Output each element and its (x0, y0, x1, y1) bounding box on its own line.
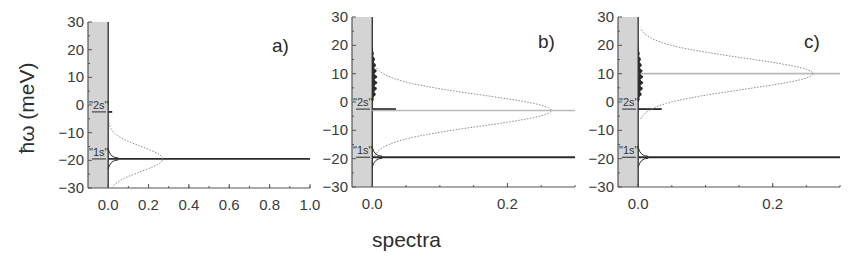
y-tick-label: 10 (597, 65, 614, 82)
x-tick-label: 0.6 (219, 196, 240, 213)
y-tick-label: 20 (597, 36, 614, 53)
y-tick-label: 0 (340, 93, 348, 110)
y-tick-label: 10 (67, 68, 84, 85)
y-tick-label: 10 (331, 65, 348, 82)
state-annotation: "1s" (619, 144, 639, 156)
panel-label: b) (538, 31, 555, 52)
y-tick-label: −20 (59, 151, 84, 168)
y-tick-label: −10 (589, 121, 614, 138)
y-tick-label: −10 (323, 121, 348, 138)
continuum-fill (372, 45, 377, 102)
x-tick-label: 0.0 (98, 196, 119, 213)
state-annotation: "2s" (619, 96, 639, 108)
panel-a: 3020100−10−20−300.00.20.40.60.81.0a)"2s"… (59, 13, 321, 213)
state-annotation: "2s" (353, 96, 373, 108)
panel-b: 3020100−10−20−300.00.2b)"2s""1s" (323, 8, 575, 212)
panel-label: a) (272, 35, 289, 56)
y-tick-label: 30 (331, 8, 348, 25)
x-tick-label: 0.0 (628, 195, 649, 212)
panel-label: c) (804, 31, 820, 52)
x-tick-label: 1.0 (300, 196, 321, 213)
x-axis-label: spectra (372, 228, 441, 252)
y-tick-label: −30 (59, 179, 84, 196)
y-tick-label: −10 (59, 124, 84, 141)
x-tick-label: 0.2 (138, 196, 159, 213)
y-tick-label: 30 (597, 8, 614, 25)
y-tick-label: 0 (76, 96, 84, 113)
y-tick-label: 30 (67, 13, 84, 30)
panel-c: 3020100−10−20−300.00.2c)"2s""1s" (589, 8, 840, 212)
x-tick-label: 0.2 (497, 195, 518, 212)
y-tick-label: 0 (606, 93, 614, 110)
y-tick-label: 20 (67, 41, 84, 58)
x-tick-label: 0.2 (762, 195, 783, 212)
gaussian-envelope (109, 123, 163, 188)
y-tick-label: −20 (589, 150, 614, 167)
x-tick-label: 0.0 (362, 195, 383, 212)
y-tick-label: −30 (323, 178, 348, 195)
y-tick-label: −30 (589, 178, 614, 195)
state-annotation: "1s" (89, 146, 109, 158)
y-tick-label: −20 (323, 150, 348, 167)
y-tick-label: 20 (331, 36, 348, 53)
x-tick-label: 0.8 (259, 196, 280, 213)
y-axis-label: ħω (meV) (15, 53, 39, 163)
state-annotation: "1s" (353, 144, 373, 156)
state-annotation: "2s" (89, 99, 109, 111)
x-tick-label: 0.4 (178, 196, 199, 213)
